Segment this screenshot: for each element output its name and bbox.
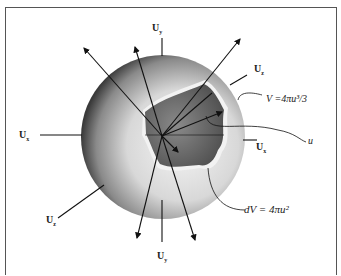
radius-label: u: [308, 135, 313, 146]
uy-bottom-label: Uy: [157, 250, 167, 263]
uz-top-label: Uz: [254, 63, 264, 76]
ux-left-label: Ux: [19, 129, 29, 142]
uy-top-label: Uy: [152, 22, 162, 35]
ux-right-label: Ux: [256, 141, 266, 154]
uz-bottom-label: Uz: [46, 214, 56, 227]
shell-volume-label: dV = 4πu²: [244, 203, 289, 215]
volume-label: V =4πu³/3: [266, 93, 307, 104]
velocity-sphere-diagram: [0, 0, 341, 276]
